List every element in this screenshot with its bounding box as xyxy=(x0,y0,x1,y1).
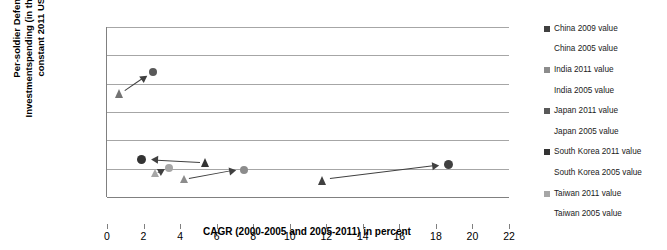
legend-item-china-2009-value[interactable]: China 2009 value xyxy=(543,18,667,39)
gridline-y-30 xyxy=(107,112,509,113)
legend-item-japan-2011-value[interactable]: Japan 2011 value xyxy=(543,100,667,121)
gridline-y-50 xyxy=(107,55,509,56)
legend-label: South Korea 2011 value xyxy=(554,147,641,156)
data-point-south-korea-2011-value xyxy=(137,155,146,164)
legend-label: China 2005 value xyxy=(554,44,618,53)
triangle-marker-icon xyxy=(543,126,554,137)
chart-legend: China 2009 valueChina 2005 valueIndia 20… xyxy=(543,18,667,224)
data-point-china-2005-value xyxy=(318,176,326,185)
legend-item-india-2005-value[interactable]: India 2005 value xyxy=(543,80,667,101)
chart-root: Per-soldier Defense Investmentspending (… xyxy=(0,0,667,250)
india-arrow xyxy=(189,170,237,179)
legend-label: Taiwan 2005 value xyxy=(554,209,622,218)
legend-label: India 2005 value xyxy=(554,86,614,95)
y-axis-title-line3: constant 2011 US$) xyxy=(35,0,47,117)
data-point-taiwan-2005-value xyxy=(151,169,159,177)
china-arrow xyxy=(330,166,440,180)
data-point-taiwan-2011-value xyxy=(165,164,173,172)
gridline-y-60 xyxy=(107,27,509,28)
legend-item-china-2005-value[interactable]: China 2005 value xyxy=(543,39,667,60)
circle-marker-icon xyxy=(543,146,554,157)
triangle-marker-icon xyxy=(543,85,554,96)
legend-label: Japan 2005 value xyxy=(554,127,619,136)
legend-item-india-2011-value[interactable]: India 2011 value xyxy=(543,59,667,80)
data-point-japan-2005-value xyxy=(115,89,123,98)
x-tick-22 xyxy=(509,224,510,229)
gridline-y-0 xyxy=(107,197,509,198)
circle-marker-icon xyxy=(543,64,554,75)
data-point-india-2011-value xyxy=(240,166,248,174)
circle-marker-icon xyxy=(543,23,554,34)
legend-item-taiwan-2011-value[interactable]: Taiwan 2011 value xyxy=(543,183,667,204)
gridline-y-20 xyxy=(107,140,509,141)
legend-label: China 2009 value xyxy=(554,24,618,33)
data-point-india-2005-value xyxy=(180,175,188,183)
gridline-y-40 xyxy=(107,84,509,85)
y-axis-title-line1: Per-soldier Defense xyxy=(11,0,23,117)
south-korea-arrow xyxy=(151,160,200,163)
y-axis-title: Per-soldier Defense Investmentspending (… xyxy=(12,0,46,128)
circle-marker-icon xyxy=(543,188,554,199)
legend-label: Japan 2011 value xyxy=(554,106,618,115)
legend-label: Taiwan 2011 value xyxy=(554,189,621,198)
legend-label: South Korea 2005 value xyxy=(554,168,642,177)
triangle-marker-icon xyxy=(543,208,554,219)
plot-area: 01020304050600246810121416182022 xyxy=(106,27,508,197)
legend-item-japan-2005-value[interactable]: Japan 2005 value xyxy=(543,121,667,142)
triangle-marker-icon xyxy=(543,167,554,178)
legend-item-south-korea-2005-value[interactable]: South Korea 2005 value xyxy=(543,162,667,183)
triangle-marker-icon xyxy=(543,43,554,54)
x-axis-title: CAGR (2000-2005 and 2005-2011) in percen… xyxy=(106,226,508,237)
legend-item-south-korea-2011-value[interactable]: South Korea 2011 value xyxy=(543,142,667,163)
data-point-japan-2011-value xyxy=(149,68,157,76)
y-axis-title-line2: Investmentspending (in thousands of xyxy=(23,0,35,117)
legend-label: India 2011 value xyxy=(554,65,613,74)
legend-item-taiwan-2005-value[interactable]: Taiwan 2005 value xyxy=(543,203,667,224)
data-point-south-korea-2005-value xyxy=(201,158,209,167)
circle-marker-icon xyxy=(543,105,554,116)
